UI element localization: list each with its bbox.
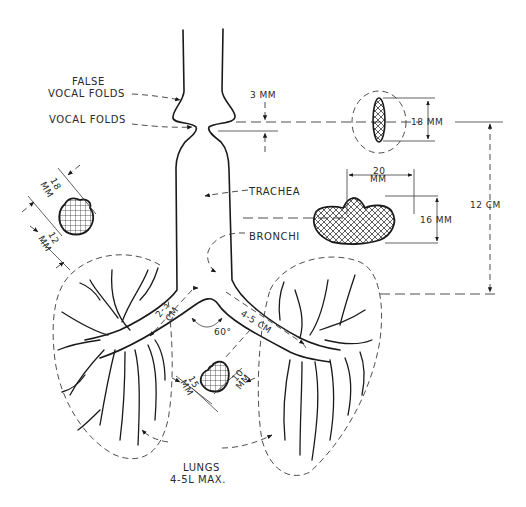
label-false-vocal-folds: VOCAL FOLDS	[48, 88, 125, 99]
dim-bifurcation-angle: 60°	[214, 327, 231, 337]
label-trachea: TRACHEA	[248, 186, 300, 197]
diagram-canvas: FALSE VOCAL FOLDS VOCAL FOLDS TRACHEA BR…	[0, 0, 526, 507]
respiratory-diagram: FALSE VOCAL FOLDS VOCAL FOLDS TRACHEA BR…	[0, 0, 526, 507]
label-leaders	[132, 94, 272, 448]
right-lung	[258, 257, 381, 475]
glottis-gap-dimension	[218, 102, 420, 152]
dim-trachea-width-unit: MM	[370, 174, 387, 184]
dim-trachea-length: 12 CM	[470, 200, 501, 210]
label-false-line1: FALSE	[72, 76, 105, 87]
label-vocal-folds: VOCAL FOLDS	[49, 114, 126, 125]
label-lungs-capacity: 4-5L MAX.	[170, 474, 226, 485]
dim-glottis-gap: 3 MM	[250, 90, 276, 100]
dim-right-bronchus: 4-5 CM	[239, 308, 273, 335]
label-lungs: LUNGS	[183, 462, 220, 473]
dim-glottis-opening: 18 MM	[411, 117, 443, 127]
center-object-cross-section	[172, 330, 255, 412]
label-bronchi: BRONCHI	[249, 231, 300, 242]
left-lung	[53, 255, 172, 459]
dim-trachea-height: 16 MM	[420, 215, 452, 225]
